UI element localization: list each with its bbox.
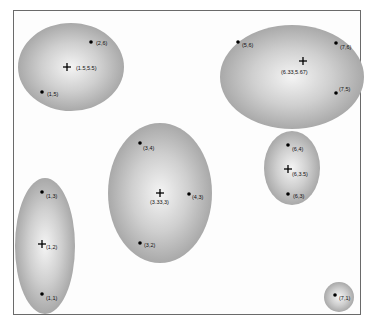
cluster-diagram: (1.5,5.5) (2,6) (1,5) (6.33,5.67) (5,6) … [0, 0, 372, 325]
cluster-ellipse [220, 25, 364, 129]
cluster-c3: (3.33,3) (3,4) (4,3) (3,2) [108, 123, 212, 263]
point-label: (1,3) [46, 193, 57, 199]
cluster-c4: (6,3.5) (6,4) (6,3) [264, 131, 320, 205]
cluster-c2: (6.33,5.67) (5,6) (7,6) (7,5) [220, 25, 364, 129]
cluster-ellipse [264, 131, 320, 205]
data-point [138, 141, 142, 145]
point-label: (1,1) [46, 295, 57, 301]
data-point [187, 192, 191, 196]
centroid-label: (1.5,5.5) [76, 65, 97, 71]
point-label: (7,6) [340, 44, 351, 50]
point-label: (4,3) [192, 194, 203, 200]
point-label: (6,3) [293, 193, 304, 199]
point-label: (5,6) [242, 42, 253, 48]
data-point [334, 41, 338, 45]
point-label: (7,1) [339, 295, 350, 301]
cluster-c5: (1,2) (1,3) (1,1) [15, 178, 75, 314]
point-label: (1,5) [47, 91, 58, 97]
data-point [333, 293, 337, 297]
centroid-label: (1,2) [46, 244, 57, 250]
data-point [40, 190, 44, 194]
cluster-ellipse [15, 178, 75, 314]
cluster-c1: (1.5,5.5) (2,6) (1,5) [18, 23, 124, 111]
centroid-label: (6.33,5.67) [281, 69, 308, 75]
data-point [286, 143, 290, 147]
data-point [89, 40, 93, 44]
point-label: (3,4) [143, 145, 154, 151]
centroid-label: (3.33,3) [150, 199, 169, 205]
centroid-label: (6,3.5) [292, 171, 308, 177]
point-label: (2,6) [96, 40, 107, 46]
data-point [40, 292, 44, 296]
point-label: (6,4) [292, 146, 303, 152]
data-point [138, 241, 142, 245]
point-label: (3,2) [144, 242, 155, 248]
data-point [236, 40, 240, 44]
cluster-c6: (7,1) [324, 282, 354, 312]
data-point [286, 192, 290, 196]
point-label: (7,5) [339, 86, 350, 92]
data-point [40, 90, 44, 94]
data-point [334, 91, 338, 95]
